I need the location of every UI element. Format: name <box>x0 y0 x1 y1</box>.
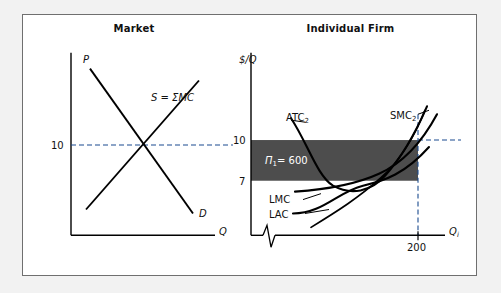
supply-curve-label-text: S = ΣMC <box>151 92 194 103</box>
smc2-label-subscript: 2 <box>412 115 416 123</box>
atc2-label-subscript: 2 <box>305 117 309 125</box>
market-y-axis-label: P <box>83 55 89 65</box>
firm-panel: Individual Firm <box>233 15 478 275</box>
firm-x-axis-label-text: Q <box>449 226 457 237</box>
lmc-leader-line <box>303 194 321 200</box>
firm-price-low-tick-label: 7 <box>239 177 245 187</box>
market-x-axis-label: Q <box>219 227 227 237</box>
firm-x-axis-label-subscript: i <box>457 231 459 239</box>
axis-break-icon <box>263 225 275 247</box>
lac-label: LAC <box>269 210 288 220</box>
lmc-label: LMC <box>269 195 290 205</box>
profit-label: Π1= 600 <box>265 156 308 168</box>
smc2-label: SMC2 <box>390 111 416 123</box>
atc2-label-text: ATC <box>286 112 305 123</box>
atc2-label: ATC2 <box>286 113 309 125</box>
firm-x-axis-label: Qi <box>449 227 459 239</box>
firm-price-high-tick-label: 10 <box>233 136 246 146</box>
demand-curve-label: D <box>199 209 207 219</box>
market-panel: Market P Q 10 S = ΣMC D <box>23 15 233 275</box>
supply-curve-label: S = ΣMC <box>151 93 194 103</box>
firm-y-axis-label: $/Q <box>239 55 257 65</box>
firm-plot <box>233 15 478 275</box>
profit-label-value: = 600 <box>277 155 308 166</box>
figure-frame: Market P Q 10 S = ΣMC D Individual Firm <box>22 14 477 276</box>
market-price-tick-label: 10 <box>51 141 64 151</box>
demand-curve <box>90 69 193 214</box>
smc2-label-text: SMC <box>390 110 412 121</box>
firm-quantity-tick-label: 200 <box>407 243 426 253</box>
profit-label-symbol: Π <box>265 155 273 166</box>
